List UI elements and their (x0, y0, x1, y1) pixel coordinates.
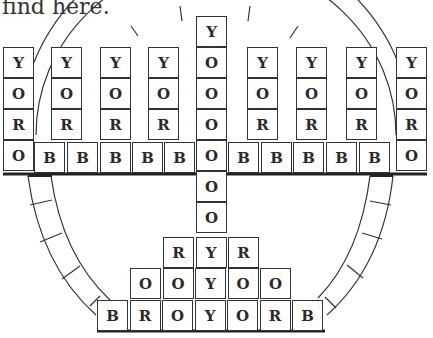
column-5-cell: O (196, 171, 227, 202)
column-6-cell: R (247, 109, 278, 140)
column-3-cell: R (100, 109, 131, 140)
column-3-cell: O (100, 78, 131, 109)
column-5-cell: O (196, 140, 227, 171)
column-5-cell: O (196, 202, 227, 233)
column-7-cell: O (296, 78, 327, 109)
bar-row-cell: B (359, 142, 390, 173)
pyramid-row-3-cell: B (97, 300, 128, 331)
pyramid-row-1-cell: Y (196, 237, 227, 268)
pyramid-row-1-cell: R (163, 237, 194, 268)
column-1-cell: Y (3, 47, 34, 78)
column-1-cell: O (3, 140, 34, 171)
pyramid-row-2-cell: O (130, 268, 161, 299)
pyramid-row-1-cell: R (228, 237, 259, 268)
pyramid-row-2-cell: O (163, 268, 194, 299)
column-9-cell: O (396, 78, 427, 109)
column-7-cell: R (296, 109, 327, 140)
column-5-cell: O (196, 109, 227, 140)
column-5-cell: O (196, 78, 227, 109)
pyramid-row-3-cell: R (130, 300, 161, 331)
bar-row-cell: B (132, 142, 163, 173)
bar-row-cell: B (100, 142, 131, 173)
column-6-cell: O (247, 78, 278, 109)
bar-row-cell: B (67, 142, 98, 173)
pyramid-row-3-cell: Y (195, 300, 226, 331)
pyramid-row-2-cell: O (228, 268, 259, 299)
pyramid-row-2-cell: O (260, 268, 291, 299)
column-4-cell: R (148, 109, 179, 140)
column-4-cell: O (148, 78, 179, 109)
bar-row-cell: B (326, 142, 357, 173)
column-8-cell: Y (346, 47, 377, 78)
column-3-cell: Y (100, 47, 131, 78)
column-1-cell: R (3, 109, 34, 140)
column-6-cell: Y (247, 47, 278, 78)
column-8-cell: O (346, 78, 377, 109)
bar-row-cell: B (34, 142, 65, 173)
column-4-cell: Y (148, 47, 179, 78)
pyramid-row-3-cell: B (292, 300, 323, 331)
bar-row-cell: B (293, 142, 324, 173)
column-9-cell: R (396, 109, 427, 140)
column-5-cell: Y (196, 16, 227, 47)
pyramid-row-3-cell: O (227, 300, 258, 331)
pyramid-row-3-cell: R (260, 300, 291, 331)
pyramid-row-2-cell: Y (195, 268, 226, 299)
column-2-cell: O (51, 78, 82, 109)
column-9-cell: Y (396, 47, 427, 78)
pyramid-row-3-cell: O (162, 300, 193, 331)
bar-row-cell: B (164, 142, 195, 173)
column-2-cell: R (51, 109, 82, 140)
column-8-cell: R (346, 109, 377, 140)
bar-row-cell: B (261, 142, 292, 173)
bar-row-cell: B (228, 142, 259, 173)
column-7-cell: Y (296, 47, 327, 78)
column-9-cell: O (396, 140, 427, 171)
column-1-cell: O (3, 78, 34, 109)
column-5-cell: O (196, 47, 227, 78)
column-2-cell: Y (51, 47, 82, 78)
